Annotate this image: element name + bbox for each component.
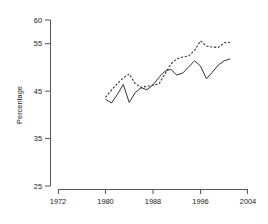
x-tick-label: 1980 <box>97 197 113 206</box>
chart-canvas: 2535455560 Percentage 197219801988199620… <box>0 0 268 224</box>
x-tick-label: 1996 <box>192 197 208 206</box>
y-axis-title: Percentage <box>15 86 24 124</box>
y-tick-label: 35 <box>34 134 42 143</box>
y-tick-label: 45 <box>34 87 42 96</box>
line-chart: 2535455560 Percentage 197219801988199620… <box>0 0 268 224</box>
y-tick-label: 55 <box>34 39 42 48</box>
y-tick-label: 60 <box>34 16 42 25</box>
x-tick-label: 1988 <box>145 197 161 206</box>
y-tick-label: 25 <box>34 182 42 191</box>
x-tick-label: 1972 <box>50 197 66 206</box>
x-tick-label: 2004 <box>240 197 256 206</box>
